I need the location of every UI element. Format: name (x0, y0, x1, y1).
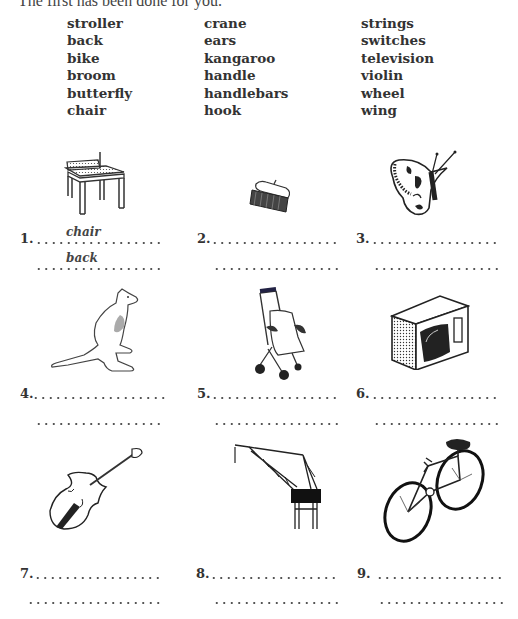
word: hook (204, 102, 288, 119)
answer-line[interactable] (371, 242, 501, 244)
word: switches (361, 32, 434, 49)
bike-picture (380, 436, 490, 546)
answer-text: back (66, 251, 98, 265)
word: wing (361, 102, 434, 119)
word-bank-column-2: crane ears kangaroo handle handlebars ho… (204, 15, 288, 119)
item-number: 2. (197, 231, 211, 246)
word: wheel (361, 85, 434, 102)
word: kangaroo (204, 50, 288, 67)
chair-picture (60, 150, 130, 220)
answer-line[interactable] (35, 242, 165, 244)
item-number: 5. (197, 386, 211, 401)
item-number: 3. (356, 231, 370, 246)
item-number: 7. (20, 566, 34, 581)
instruction-text: The first has been done for you. (18, 0, 222, 10)
word: crane (204, 15, 288, 32)
word: broom (67, 67, 132, 84)
answer-line[interactable] (35, 423, 165, 425)
answer-line[interactable] (211, 242, 341, 244)
word: butterfly (67, 85, 132, 102)
item-number: 6. (356, 386, 370, 401)
answer-text: chair (66, 225, 101, 239)
kangaroo-picture (48, 285, 143, 380)
answer-line[interactable] (34, 577, 164, 579)
answer-line[interactable] (27, 602, 164, 604)
word-bank-column-3: strings switches television violin wheel… (361, 15, 434, 119)
word: handle (204, 67, 288, 84)
answer-line[interactable] (371, 397, 501, 399)
violin-picture (46, 445, 146, 535)
item-number: 8. (196, 566, 210, 581)
word: television (361, 50, 434, 67)
answer-line[interactable] (35, 268, 165, 270)
item-number: 1. (20, 231, 34, 246)
word: handlebars (204, 85, 288, 102)
television-picture (390, 290, 470, 370)
word: back (67, 32, 132, 49)
word-bank-column-1: stroller back bike broom butterfly chair (67, 15, 132, 119)
answer-line[interactable] (210, 577, 340, 579)
word: bike (67, 50, 132, 67)
word: ears (204, 32, 288, 49)
word: stroller (67, 15, 132, 32)
answer-line[interactable] (373, 268, 501, 270)
answer-line[interactable] (213, 423, 341, 425)
item-number: 9. (357, 566, 371, 581)
crane-picture (233, 443, 333, 533)
word: strings (361, 15, 434, 32)
answer-line[interactable] (378, 602, 504, 604)
answer-line[interactable] (376, 577, 504, 579)
butterfly-picture (385, 150, 465, 220)
broom-picture (248, 178, 298, 218)
answer-line[interactable] (211, 397, 341, 399)
answer-line[interactable] (213, 602, 340, 604)
answer-line[interactable] (213, 268, 341, 270)
answer-line[interactable] (32, 397, 165, 399)
answer-line[interactable] (373, 423, 501, 425)
stroller-picture (248, 287, 318, 382)
word: violin (361, 67, 434, 84)
word: chair (67, 102, 132, 119)
